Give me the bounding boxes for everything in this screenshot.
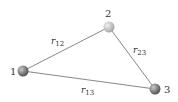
particle-1: [18, 66, 29, 77]
particle-2: [104, 22, 115, 33]
distance-label-r13: r13: [81, 85, 94, 97]
edge-2-3: [109, 27, 155, 89]
edge-1-2: [23, 27, 109, 71]
distance-label-r23: r23: [133, 45, 146, 57]
particle-label-1: 1: [10, 66, 16, 77]
particle-3: [150, 84, 161, 95]
particle-label-2: 2: [105, 8, 111, 19]
distance-label-r12: r12: [51, 36, 64, 48]
edge-1-3: [23, 71, 155, 89]
three-body-diagram: r12r23r13123: [0, 0, 178, 102]
particle-label-3: 3: [164, 84, 170, 95]
